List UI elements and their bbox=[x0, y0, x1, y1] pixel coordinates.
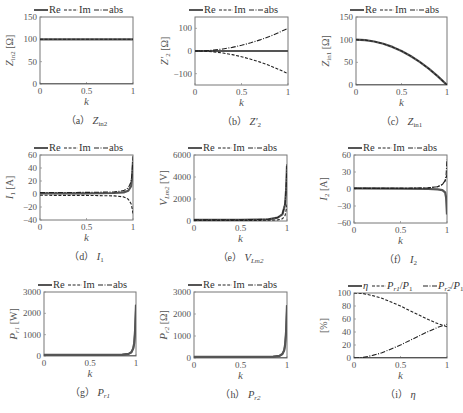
y-tick-label: −20 bbox=[23, 202, 38, 212]
y-tick-label: 50 bbox=[28, 57, 38, 67]
y-tick-label: 80 bbox=[342, 301, 352, 311]
y-tick-label: 0 bbox=[347, 184, 352, 194]
x-tick-label: 1 bbox=[445, 360, 450, 370]
y-tick-label: 3000 bbox=[23, 287, 42, 297]
y-tick-label: 100 bbox=[340, 35, 354, 45]
y-axis-label: VLm2 [V] bbox=[157, 170, 171, 206]
subplot-d: −40−20020406000.51kI1 [A]ReImabs（d） I1 bbox=[3, 142, 135, 264]
y-tick-label: 100 bbox=[338, 288, 352, 298]
series-abs bbox=[195, 28, 288, 51]
y-tick-label: 20 bbox=[342, 340, 352, 350]
subplot-g: 010002000300000.51kPr1 [W]ReImabs（g） Pr1 bbox=[7, 279, 138, 400]
series-abs bbox=[356, 40, 447, 85]
legend-label: Im bbox=[393, 142, 405, 153]
y-tick-label: 1000 bbox=[173, 331, 192, 341]
legend-label: abs bbox=[113, 279, 127, 290]
legend-label: Re bbox=[363, 142, 375, 153]
subplot-f: −60−300306000.51kI2 [A]ReImabs（f） I2 bbox=[317, 142, 449, 267]
subplot-e: 020004000600000.51kVLm2 [V]ReImabs（e） VL… bbox=[157, 142, 289, 265]
x-tick-label: 0 bbox=[193, 87, 198, 97]
legend-label: Re bbox=[49, 4, 61, 15]
y-tick-label: 100 bbox=[24, 34, 38, 44]
y-tick-label: 60 bbox=[342, 150, 352, 160]
y-axis-label: Zin1 [Ω] bbox=[319, 35, 333, 67]
legend: ReImabs bbox=[348, 142, 437, 153]
x-axis-label: k bbox=[238, 369, 244, 381]
y-tick-label: 50 bbox=[344, 57, 354, 67]
series-abs bbox=[354, 160, 447, 189]
series-im bbox=[354, 175, 447, 189]
y-tick-label: 0 bbox=[349, 80, 354, 90]
subplot-caption: （c） Zin1 bbox=[381, 116, 423, 129]
legend-label: abs bbox=[109, 142, 123, 153]
x-tick-label: 1 bbox=[285, 360, 290, 370]
y-tick-label: −30 bbox=[337, 201, 352, 211]
series-abs bbox=[194, 164, 287, 220]
x-tick-label: 0 bbox=[192, 360, 197, 370]
legend-label: Pr1/P1 bbox=[386, 280, 413, 293]
figure-grid: 05010015000.51kZin2 [Ω]ReImabs（a） Zin2−1… bbox=[0, 0, 463, 413]
x-tick-label: 0 bbox=[352, 225, 357, 235]
series-re bbox=[194, 166, 287, 220]
legend: ReImabs bbox=[189, 4, 278, 15]
y-tick-label: 2000 bbox=[173, 194, 192, 204]
y-tick-label: 2000 bbox=[173, 309, 192, 319]
legend-label: abs bbox=[425, 4, 439, 15]
legend-label: abs bbox=[263, 142, 277, 153]
series-re bbox=[40, 162, 133, 194]
series-abs bbox=[194, 305, 287, 357]
subplot-caption: （i） η bbox=[385, 389, 416, 400]
y-tick-label: 3000 bbox=[173, 287, 192, 297]
y-tick-label: 100 bbox=[179, 23, 193, 33]
series-im bbox=[195, 51, 288, 74]
x-tick-label: 1 bbox=[134, 358, 139, 368]
axes-frame bbox=[194, 292, 287, 358]
series-re bbox=[356, 40, 447, 85]
y-tick-label: 60 bbox=[28, 150, 38, 160]
y-tick-label: 0 bbox=[33, 79, 38, 89]
x-tick-label: 1 bbox=[445, 225, 450, 235]
legend-label: Re bbox=[49, 142, 61, 153]
legend: ReImabs bbox=[38, 279, 127, 290]
legend-label: Im bbox=[395, 4, 407, 15]
y-tick-label: 1000 bbox=[23, 330, 42, 340]
legend-label: Pr2/P1 bbox=[437, 280, 463, 293]
subplot-caption: （f） I2 bbox=[384, 254, 417, 267]
subplot-i: 02040608010000.51k[%]ηPr1/P1Pr2/P1（i） η bbox=[318, 280, 463, 400]
series-abs bbox=[44, 305, 136, 355]
x-axis-label: k bbox=[238, 232, 244, 244]
x-axis-label: k bbox=[88, 367, 94, 379]
y-axis-label: Z′2 [Ω] bbox=[158, 37, 172, 66]
subplot-caption: （g） Pr1 bbox=[70, 387, 110, 400]
legend-label: Im bbox=[233, 279, 245, 290]
series-im bbox=[40, 195, 133, 213]
legend-label: abs bbox=[109, 4, 123, 15]
x-tick-label: 0 bbox=[354, 87, 359, 97]
y-tick-label: −60 bbox=[337, 218, 352, 228]
legend: ReImabs bbox=[34, 142, 123, 153]
y-tick-label: 4000 bbox=[173, 172, 192, 182]
legend-label: Im bbox=[79, 4, 91, 15]
legend-label: Im bbox=[83, 279, 95, 290]
legend-label: Im bbox=[234, 4, 246, 15]
axes-frame bbox=[354, 293, 447, 358]
y-tick-label: 6000 bbox=[173, 150, 192, 160]
subplot-b: −100010000.51kZ′2 [Ω]ReImabs（b） Z′2 bbox=[158, 4, 290, 129]
axes-frame bbox=[44, 292, 136, 356]
series-re bbox=[44, 305, 136, 355]
y-tick-label: 150 bbox=[24, 12, 38, 22]
legend-label: abs bbox=[263, 279, 277, 290]
legend-label: Re bbox=[53, 279, 65, 290]
x-tick-label: 0 bbox=[38, 222, 43, 232]
legend-label: η bbox=[363, 280, 368, 291]
legend-label: Re bbox=[203, 279, 215, 290]
x-axis-label: k bbox=[399, 96, 405, 108]
y-tick-label: 40 bbox=[342, 327, 352, 337]
x-axis-label: k bbox=[398, 234, 404, 246]
y-tick-label: 0 bbox=[347, 353, 352, 363]
series-re bbox=[194, 305, 287, 357]
y-tick-label: 20 bbox=[28, 176, 38, 186]
y-axis-label: I1 [A] bbox=[3, 176, 17, 201]
subplot-caption: （a） Zin2 bbox=[66, 115, 108, 128]
series-pr2p1 bbox=[354, 324, 447, 358]
